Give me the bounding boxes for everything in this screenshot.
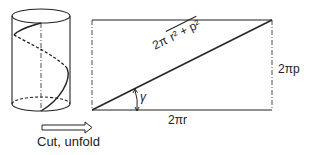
helix-front-bottom bbox=[41, 68, 68, 111]
helix-back bbox=[14, 35, 67, 68]
helix-front-top bbox=[14, 23, 41, 35]
unfolded-helix-diagram bbox=[0, 0, 317, 155]
width-label: 2πr bbox=[168, 114, 187, 126]
height-label: 2πp bbox=[278, 63, 300, 75]
cylinder bbox=[12, 9, 70, 111]
unfold-arrow-icon bbox=[42, 122, 92, 133]
cut-unfold-label: Cut, unfold bbox=[37, 135, 100, 148]
angle-gamma-label: γ bbox=[140, 91, 146, 103]
